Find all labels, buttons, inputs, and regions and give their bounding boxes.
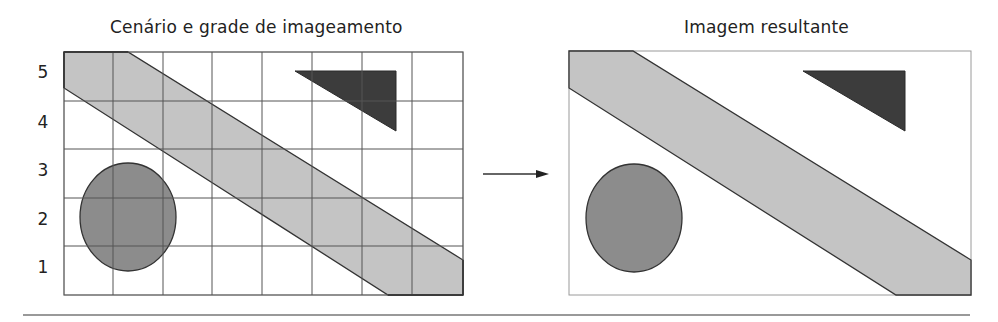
ellipse-shape [80,163,176,271]
diagram-canvas [0,0,998,322]
ellipse-shape [586,164,682,272]
scene-panel [64,52,463,295]
resulting-image-panel [569,51,971,295]
arrow-right-icon [483,170,549,178]
